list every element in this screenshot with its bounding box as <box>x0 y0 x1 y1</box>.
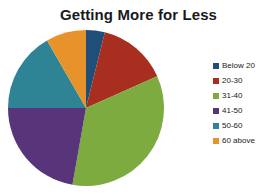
legend-item-label: 50-60 <box>222 122 242 130</box>
legend-swatch-icon <box>213 123 219 129</box>
chart-legend: Below 2020-3031-4041-5050-6060 above <box>213 58 277 148</box>
legend-item[interactable]: 60 above <box>213 133 277 148</box>
legend-item[interactable]: Below 20 <box>213 58 277 73</box>
pie-slices-group <box>8 30 164 186</box>
pie-slice[interactable] <box>8 108 86 185</box>
legend-item-label: Below 20 <box>222 62 255 70</box>
legend-item-label: 20-30 <box>222 77 242 85</box>
legend-item[interactable]: 20-30 <box>213 73 277 88</box>
legend-swatch-icon <box>213 63 219 69</box>
legend-swatch-icon <box>213 93 219 99</box>
legend-item[interactable]: 50-60 <box>213 118 277 133</box>
chart-title: Getting More for Less <box>0 6 277 23</box>
legend-swatch-icon <box>213 138 219 144</box>
pie-svg <box>0 26 200 195</box>
legend-swatch-icon <box>213 108 219 114</box>
legend-item-label: 41-50 <box>222 107 242 115</box>
legend-swatch-icon <box>213 78 219 84</box>
pie-chart-figure: Getting More for Less Below 2020-3031-40… <box>0 0 277 195</box>
pie-plot-area <box>0 26 200 195</box>
legend-item[interactable]: 31-40 <box>213 88 277 103</box>
legend-item-label: 60 above <box>222 137 255 145</box>
legend-item[interactable]: 41-50 <box>213 103 277 118</box>
legend-item-label: 31-40 <box>222 92 242 100</box>
